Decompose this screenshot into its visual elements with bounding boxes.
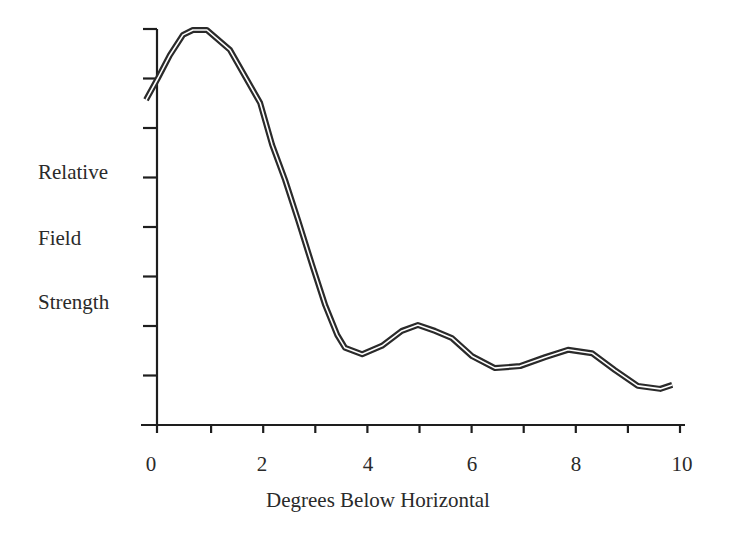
y-axis-label-line-3: Strength — [38, 290, 109, 315]
x-tick-label-4: 4 — [348, 452, 388, 477]
x-tick-label-2: 2 — [242, 452, 282, 477]
series-line-center — [146, 30, 672, 389]
x-axis-label: Degrees Below Horizontal — [0, 488, 731, 513]
x-tick-label-10: 10 — [662, 452, 702, 477]
x-tick-label-8: 8 — [556, 452, 596, 477]
x-tick-label-6: 6 — [452, 452, 492, 477]
axes — [141, 29, 685, 433]
series-line-outline — [146, 30, 672, 389]
data-series — [146, 30, 672, 389]
x-tick-label-0: 0 — [131, 452, 171, 477]
y-axis-label-line-2: Field — [38, 226, 81, 251]
y-axis-label-line-1: Relative — [38, 160, 108, 185]
